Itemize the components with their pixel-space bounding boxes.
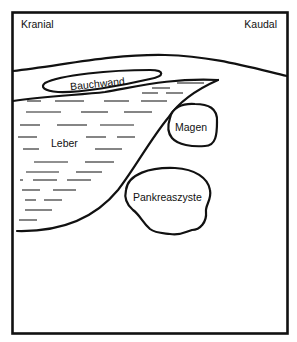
label-pankreaszyste: Pankreaszyste (133, 191, 202, 203)
label-leber: Leber (51, 137, 78, 149)
anatomy-diagram: Kranial Kaudal Bauchwand (0, 0, 297, 342)
label-magen: Magen (175, 121, 207, 133)
label-kaudal: Kaudal (244, 18, 277, 30)
label-kranial: Kranial (21, 18, 54, 30)
